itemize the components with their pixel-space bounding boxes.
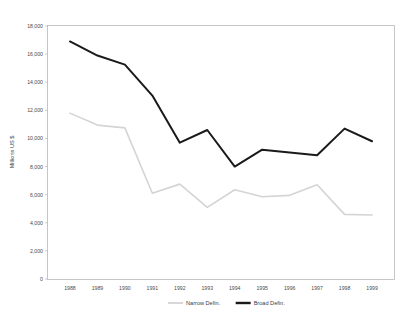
x-tick-label: 1994 [229, 285, 241, 291]
y-tick-label: 12,000 [27, 107, 43, 113]
y-tick-label: 8,000 [30, 164, 43, 170]
y-tick-label: 10,000 [27, 135, 43, 141]
x-tick-label: 1993 [201, 285, 213, 291]
series-lines [70, 41, 372, 215]
x-tick-label: 1999 [366, 285, 378, 291]
x-tick-label: 1998 [339, 285, 351, 291]
y-axis-title: Millions US $ [9, 135, 15, 169]
legend-label-1: Broad Defin. [254, 300, 286, 306]
y-tick-label: 4,000 [30, 220, 43, 226]
y-tick-label: 0 [40, 276, 43, 282]
y-tick-label: 18,000 [27, 23, 43, 29]
y-tick-label: 6,000 [30, 192, 43, 198]
x-tick-label: 1997 [311, 285, 323, 291]
x-tick-label: 1988 [64, 285, 76, 291]
x-tick-label: 1990 [119, 285, 131, 291]
y-tick-label: 14,000 [27, 79, 43, 85]
y-tick-label: 2,000 [30, 248, 43, 254]
x-tick-label: 1995 [256, 285, 268, 291]
series-line-broad-defin [70, 41, 372, 166]
x-tick-label: 1996 [284, 285, 296, 291]
plot-area-border [48, 26, 395, 280]
x-tick-label: 1992 [174, 285, 186, 291]
legend-label-0: Narrow Defin. [186, 300, 221, 306]
y-axis-tick-labels: 18,00016,00014,00012,00010,0008,0006,000… [27, 23, 47, 282]
series-line-narrow-defin [70, 113, 372, 215]
line-chart: 18,00016,00014,00012,00010,0008,0006,000… [0, 0, 412, 324]
x-tick-label: 1989 [92, 285, 104, 291]
y-tick-label: 16,000 [27, 51, 43, 57]
x-tick-label: 1991 [147, 285, 159, 291]
chart-svg: 18,00016,00014,00012,00010,0008,0006,000… [0, 0, 412, 324]
x-axis-tick-labels: 1988198919901991199219931994199519961997… [64, 285, 378, 291]
chart-legend: Narrow Defin.Broad Defin. [168, 300, 285, 306]
